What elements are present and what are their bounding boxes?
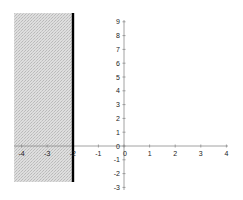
y-tick-label: 0 xyxy=(116,143,120,150)
y-tick-labels: -3-2-10123456789 xyxy=(114,18,120,191)
x-tick-label: 1 xyxy=(148,150,152,157)
y-tick-label: -2 xyxy=(114,170,120,177)
x-tick-label: 4 xyxy=(224,150,228,157)
y-tick-label: 3 xyxy=(116,101,120,108)
x-tick-label: 2 xyxy=(173,150,177,157)
y-tick-label: -3 xyxy=(114,184,120,191)
y-tick-label: 9 xyxy=(116,18,120,25)
y-tick-label: 8 xyxy=(116,32,120,39)
y-tick-label: -1 xyxy=(114,156,120,163)
x-tick-label: -2 xyxy=(70,150,76,157)
y-tick-label: 4 xyxy=(116,87,120,94)
y-tick-label: 5 xyxy=(116,74,120,81)
x-tick-label: -1 xyxy=(95,150,101,157)
y-tick-label: 6 xyxy=(116,60,120,67)
x-tick-label: -4 xyxy=(18,150,24,157)
x-tick-label: -3 xyxy=(44,150,50,157)
x-tick-label: 0 xyxy=(123,150,127,157)
y-tick-label: 7 xyxy=(116,46,120,53)
y-tick-label: 2 xyxy=(116,115,120,122)
x-tick-labels: -4-3-2-101234 xyxy=(18,150,228,157)
y-tick-label: 1 xyxy=(116,129,120,136)
x-tick-label: 3 xyxy=(199,150,203,157)
inequality-plot: -4-3-2-101234 -3-2-10123456789 xyxy=(0,0,243,200)
